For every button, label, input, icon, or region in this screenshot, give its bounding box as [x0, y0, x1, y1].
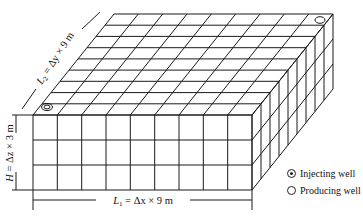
- injecting-well-icon: [287, 169, 296, 178]
- l1-label: L1 = Δx × 9 m: [112, 195, 173, 208]
- legend-item-producing: Producing well: [287, 185, 361, 196]
- legend-label: Producing well: [300, 185, 361, 196]
- legend-item-injecting: Injecting well: [287, 168, 355, 179]
- h-label: H = Δz × 3 m: [4, 124, 15, 182]
- legend-label: Injecting well: [300, 168, 355, 179]
- l2-label: L2 = Δy × 9 m: [34, 30, 78, 88]
- producing-well-icon: [287, 186, 296, 195]
- producing-well-marker: [315, 17, 325, 24]
- injecting-well-marker: [42, 103, 53, 110]
- reservoir-grid-figure: L2 = Δy × 9 m H = Δz × 3 m L1 = Δx × 9 m…: [0, 0, 363, 220]
- grid-lines: [33, 14, 333, 190]
